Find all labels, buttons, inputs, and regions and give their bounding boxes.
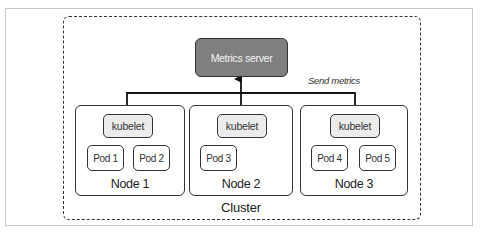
node-2: kubelet Pod 3 Node 2 [189,105,293,196]
kubelet-label: kubelet [112,120,144,132]
pod-box: Pod 1 [87,145,124,171]
metrics-server-box: Metrics server [195,38,288,77]
cluster-label: Cluster [0,200,482,215]
node-3: kubelet Pod 4 Pod 5 Node 3 [300,105,408,196]
kubelet-box: kubelet [103,114,153,138]
pod-label: Pod 5 [365,153,390,164]
node-label: Node 3 [301,177,407,191]
node-label: Node 2 [190,177,292,191]
node-label: Node 1 [76,177,184,191]
kubelet-box: kubelet [330,114,380,138]
pod-box: Pod 3 [200,145,237,171]
kubelet-label: kubelet [339,120,371,132]
kubelet-label: kubelet [226,120,258,132]
kubelet-box: kubelet [217,114,267,138]
pod-label: Pod 3 [206,153,231,164]
pod-box: Pod 5 [359,145,396,171]
pod-label: Pod 1 [93,153,118,164]
pod-label: Pod 4 [317,153,342,164]
node-1: kubelet Pod 1 Pod 2 Node 1 [75,105,185,196]
send-metrics-label: Send metrics [308,75,360,86]
pod-box: Pod 2 [133,145,170,171]
metrics-server-label: Metrics server [211,52,273,64]
pod-box: Pod 4 [311,145,348,171]
pod-label: Pod 2 [139,153,164,164]
